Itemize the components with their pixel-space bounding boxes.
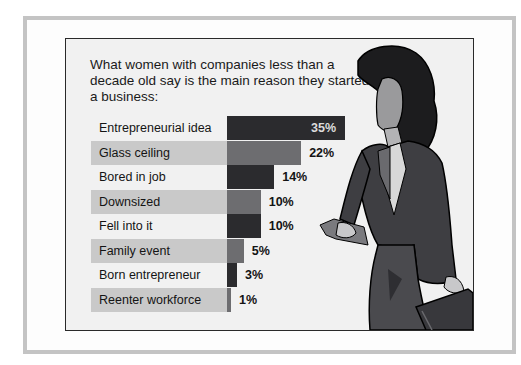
- bar: [227, 141, 301, 165]
- label-band: Bored in job: [91, 165, 227, 189]
- label-band: Born entrepreneur: [91, 263, 227, 287]
- label-band: Glass ceiling: [91, 141, 227, 165]
- value-label: 1%: [239, 288, 257, 312]
- value-label: 3%: [245, 263, 263, 287]
- bar: [227, 214, 261, 238]
- category-label: Downsized: [99, 190, 160, 214]
- label-band: Fell into it: [91, 214, 227, 238]
- value-label: 10%: [269, 190, 294, 214]
- label-band: Entrepreneurial idea: [91, 116, 227, 140]
- chart-panel: What women with companies less than a de…: [65, 38, 474, 331]
- bar: [227, 263, 237, 287]
- bar: [227, 190, 261, 214]
- value-label: 14%: [282, 165, 307, 189]
- value-label: 10%: [269, 214, 294, 238]
- label-band: Family event: [91, 239, 227, 263]
- category-label: Fell into it: [99, 214, 153, 238]
- category-label: Bored in job: [99, 165, 166, 189]
- category-label: Reenter workforce: [99, 288, 201, 312]
- bar: [227, 239, 244, 263]
- bar: [227, 165, 274, 189]
- category-label: Glass ceiling: [99, 141, 170, 165]
- value-label: 5%: [252, 239, 270, 263]
- bar: [227, 288, 231, 312]
- businesswoman-illustration-icon: [318, 39, 473, 330]
- category-label: Family event: [99, 239, 170, 263]
- label-band: Reenter workforce: [91, 288, 227, 312]
- category-label: Entrepreneurial idea: [99, 116, 212, 140]
- category-label: Born entrepreneur: [99, 263, 200, 287]
- label-band: Downsized: [91, 190, 227, 214]
